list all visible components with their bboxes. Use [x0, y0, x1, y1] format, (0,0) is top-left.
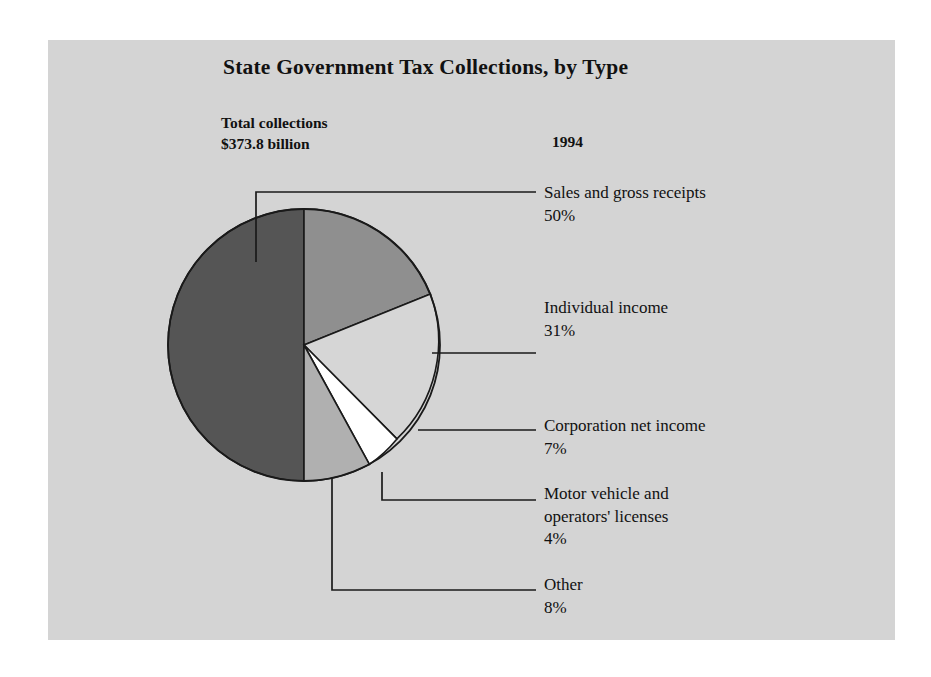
callout-label: Other — [544, 575, 583, 594]
callout-label-line1: Motor vehicle and — [544, 484, 669, 503]
callout-sales-and-gross-receipts: Sales and gross receipts 50% — [544, 182, 706, 227]
callout-label: Corporation net income — [544, 416, 705, 435]
callout-motor-vehicle: Motor vehicle and operators' licenses 4% — [544, 483, 669, 551]
callout-corporation-net-income: Corporation net income 7% — [544, 415, 705, 460]
callout-label: Sales and gross receipts — [544, 183, 706, 202]
callout-percent: 4% — [544, 528, 669, 551]
callout-individual-income: Individual income 31% — [544, 297, 668, 342]
callout-label: Individual income — [544, 298, 668, 317]
callout-percent: 31% — [544, 320, 668, 343]
pie-slice-sales-and-gross-receipts — [168, 209, 304, 481]
callout-other: Other 8% — [544, 574, 583, 619]
callout-percent: 8% — [544, 597, 583, 620]
callout-percent: 50% — [544, 205, 706, 228]
callout-label-line2: operators' licenses — [544, 506, 669, 529]
chart-figure-panel: State Government Tax Collections, by Typ… — [48, 40, 895, 640]
leader-line-motor-vehicle — [382, 472, 536, 500]
leader-line-other — [332, 478, 536, 590]
pie-chart — [48, 40, 895, 640]
callout-percent: 7% — [544, 438, 705, 461]
